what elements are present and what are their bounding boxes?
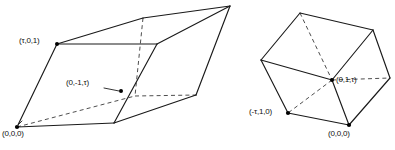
- right-vertex-origin: [347, 123, 351, 127]
- right-edge-upper-right: [373, 30, 390, 78]
- right-label-01tau: (0,1,τ): [336, 76, 356, 84]
- right-edge-left-down: [261, 60, 288, 113]
- left-edge-top-front-left: [57, 18, 143, 44]
- left-hidden-edge-top-vertical: [135, 18, 143, 96]
- left-vertex-tau01: [55, 42, 59, 46]
- left-edge-top-right-slant: [157, 6, 230, 44]
- right-edge-upper-left: [261, 13, 300, 60]
- right-edge-bottom-front-right: [349, 78, 390, 125]
- left-edge-top-far: [143, 6, 230, 18]
- right-edge-center-to-upper-right: [332, 30, 373, 80]
- right-label-minustau-1-0: (-τ,1,0): [249, 108, 272, 116]
- left-edge-left-vertical: [17, 44, 57, 127]
- right-edge-center-down: [332, 80, 349, 125]
- right-parallelepiped: [261, 13, 390, 127]
- left-label-origin: (0,0,0): [2, 130, 24, 138]
- left-label-0-minus1-tau: (0,-1,τ): [66, 79, 89, 87]
- left-solid-edges: [17, 6, 230, 127]
- left-hidden-edge-rear-bottom: [135, 95, 197, 96]
- right-edge-bottom-front-left: [288, 113, 349, 125]
- right-hidden-edge-top-to-center: [300, 13, 332, 80]
- right-solid-edges: [261, 13, 390, 125]
- left-hidden-edges: [17, 18, 197, 127]
- left-vertex-0m1tau: [119, 89, 123, 93]
- left-edge-mid-vertical: [114, 44, 157, 123]
- right-edge-upper-top: [300, 13, 373, 30]
- left-parallelepiped: [15, 6, 230, 129]
- figure-canvas: (τ,0,1) (0,-1,τ) (0,0,0) (0,1,τ) (-τ,1,0…: [0, 0, 395, 150]
- right-hidden-edge-center-to-lower-left: [288, 80, 332, 113]
- right-label-origin: (0,0,0): [328, 130, 350, 138]
- right-edge-upper-bottom: [261, 60, 332, 80]
- right-vertex-01tau: [330, 78, 334, 82]
- left-edge-right-vertical: [196, 6, 230, 95]
- left-leader-0m1tau: [104, 88, 119, 91]
- right-vertex-mtau10: [286, 111, 290, 115]
- left-label-tau01: (τ,0,1): [19, 37, 39, 45]
